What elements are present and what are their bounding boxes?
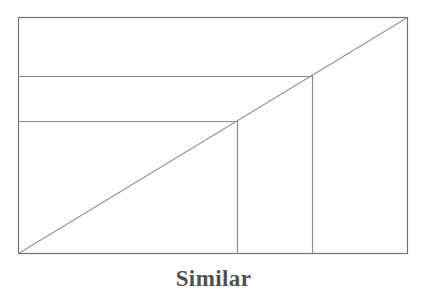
figure-root: Similar <box>0 0 427 304</box>
corner-diagonal <box>19 18 408 254</box>
similar-rectangles-diagram <box>0 0 427 304</box>
figure-caption: Similar <box>0 266 427 292</box>
